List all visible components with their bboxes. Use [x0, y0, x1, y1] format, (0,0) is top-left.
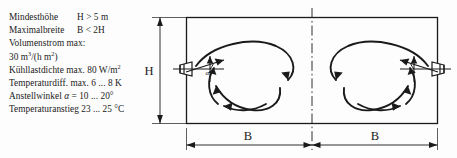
- width-dimension-label-left: B: [244, 129, 252, 143]
- height-arrow-bottom: [157, 115, 163, 124]
- height-arrow-top: [157, 18, 163, 27]
- spec-line-min-height: MindesthöheH > 5 m: [9, 11, 159, 24]
- spec-label-volume-flow: Volumenstrom max:: [9, 38, 85, 48]
- spec-angle-post: = 10 ... 20°: [69, 91, 113, 101]
- spec-line-volume-flow-value: 30 m3/(h m2): [9, 51, 159, 64]
- spec-label-max-width: Maximalbreite: [9, 24, 77, 37]
- spec-flow-mid: /(h m: [31, 52, 51, 62]
- width-right-arrow-start: [312, 142, 321, 148]
- width-right-arrow-end: [429, 142, 438, 148]
- width-left-arrow-start: [187, 142, 196, 148]
- spec-line-max-width: MaximalbreiteB < 2H: [9, 24, 159, 37]
- spec-label-temp-rise: Temperaturanstieg 23 ... 25 °C: [9, 104, 124, 114]
- spec-cooling-pre: Kühllastdichte max. 80 W/m: [9, 65, 118, 75]
- spec-value-max-width: B < 2H: [77, 24, 105, 37]
- nozzle-left-axis-arrowhead: [207, 56, 213, 63]
- airflow-arrowhead-right-inner-bottom: [392, 103, 400, 111]
- specification-list: MindesthöheH > 5 m MaximalbreiteB < 2H V…: [9, 11, 159, 117]
- nozzle-right-axis-arrowhead: [411, 56, 417, 63]
- airflow-arrowhead-left-inner-bottom: [224, 103, 232, 111]
- spec-line-nozzle-angle: Anstellwinkel α = 10 ... 20°: [9, 90, 159, 103]
- spec-angle-pre: Anstellwinkel: [9, 91, 64, 101]
- spec-label-temp-difference: Temperaturdiff. max. 6 ... 8 K: [9, 78, 122, 88]
- nozzle-left-angle-label: α: [206, 69, 210, 77]
- spec-line-cooling-load: Kühllastdichte max. 80 W/m2: [9, 64, 159, 77]
- spec-line-temp-rise: Temperaturanstieg 23 ... 25 °C: [9, 103, 159, 116]
- figure-room-airflow: MindesthöheH > 5 m MaximalbreiteB < 2H V…: [0, 0, 457, 158]
- spec-flow-post: ): [55, 52, 58, 62]
- spec-value-min-height: H > 5 m: [77, 11, 108, 24]
- spec-line-volume-flow-heading: Volumenstrom max:: [9, 37, 159, 50]
- width-left-arrow-end: [304, 142, 313, 148]
- spec-cooling-exponent-square: 2: [118, 63, 121, 70]
- room-cross-section-diagram: H B B: [140, 0, 457, 158]
- width-dimension-label-right: B: [371, 129, 379, 143]
- height-dimension-label: H: [144, 64, 153, 78]
- spec-flow-pre: 30 m: [9, 52, 28, 62]
- spec-label-min-height: Mindesthöhe: [9, 11, 77, 24]
- spec-line-temp-difference: Temperaturdiff. max. 6 ... 8 K: [9, 77, 159, 90]
